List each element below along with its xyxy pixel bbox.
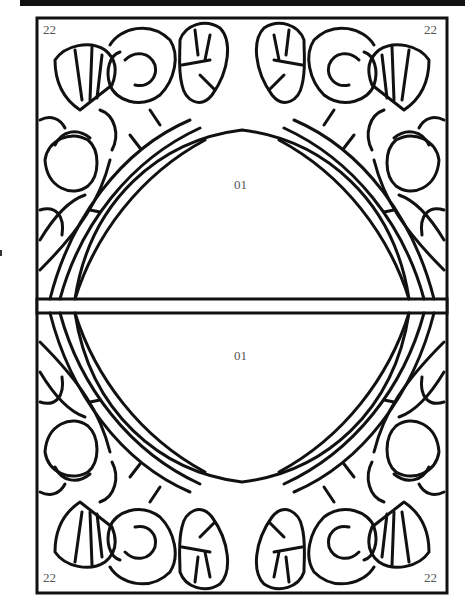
- quadrant-top-left: [40, 23, 228, 299]
- center-band: [37, 299, 447, 313]
- center-label-lower: 01: [234, 348, 247, 364]
- stained-glass-pattern: [0, 0, 465, 610]
- lower-arch: [75, 313, 409, 482]
- quadrant-bottom-right: [256, 313, 444, 589]
- corner-label-bottom-left: 22: [43, 570, 56, 586]
- quadrant-bottom-left: [40, 313, 228, 589]
- corner-label-bottom-right: 22: [424, 570, 437, 586]
- corner-label-top-right: 22: [424, 22, 437, 38]
- corner-label-top-left: 22: [43, 22, 56, 38]
- center-label-upper: 01: [234, 177, 247, 193]
- quadrant-top-right: [256, 23, 444, 299]
- upper-arch: [75, 130, 409, 299]
